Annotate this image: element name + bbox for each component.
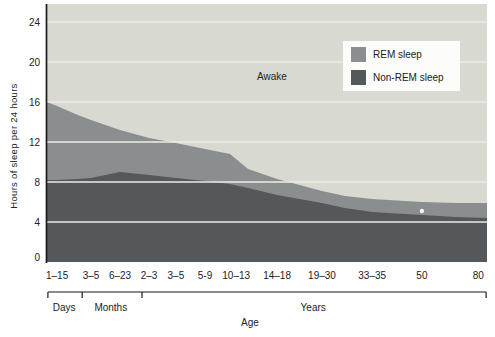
nonrem-legend-swatch [351,70,366,85]
x-tick-label: 10–13 [222,270,250,281]
x-tick-label: 3–5 [168,270,185,281]
x-axis-bracket [48,292,486,298]
marker-dot [420,209,424,213]
x-tick-label: 80 [473,270,485,281]
y-tick-label: 12 [29,137,41,148]
legend-item-rem: REM sleep [351,47,460,62]
x-axis-group-label: Days [53,302,76,313]
y-tick-label: 16 [29,97,41,108]
y-tick-label: 0 [34,252,40,263]
rem-legend-label: REM sleep [373,49,422,60]
x-tick-label: 3–5 [83,270,100,281]
x-tick-label: 33–35 [358,270,386,281]
y-tick-label: 4 [34,217,40,228]
y-tick-label: 8 [34,177,40,188]
x-tick-label: 2–3 [141,270,158,281]
x-tick-label: 5-9 [198,270,213,281]
x-tick-label: 14–18 [263,270,291,281]
nonrem-legend-label: Non-REM sleep [373,72,444,83]
x-axis-group-label: Months [94,302,127,313]
y-axis-title: Hours of sleep per 24 hours [8,83,19,208]
legend: REM sleep Non-REM sleep [343,41,460,91]
x-axis-group-label: Years [301,302,326,313]
x-tick-label: 1–15 [46,270,69,281]
x-tick-label: 6–23 [109,270,132,281]
x-axis-title: Age [241,317,259,328]
y-tick-label: 24 [29,17,41,28]
awake-area-label: Awake [257,71,287,82]
rem-legend-swatch [351,47,366,62]
legend-item-nonrem: Non-REM sleep [351,70,460,85]
sleep-hours-by-age-chart: 048121620241–153–56–232–33–55-910–1314–1… [0,0,495,337]
x-tick-label: 19–30 [308,270,336,281]
x-tick-label: 50 [416,270,428,281]
y-tick-label: 20 [29,57,41,68]
